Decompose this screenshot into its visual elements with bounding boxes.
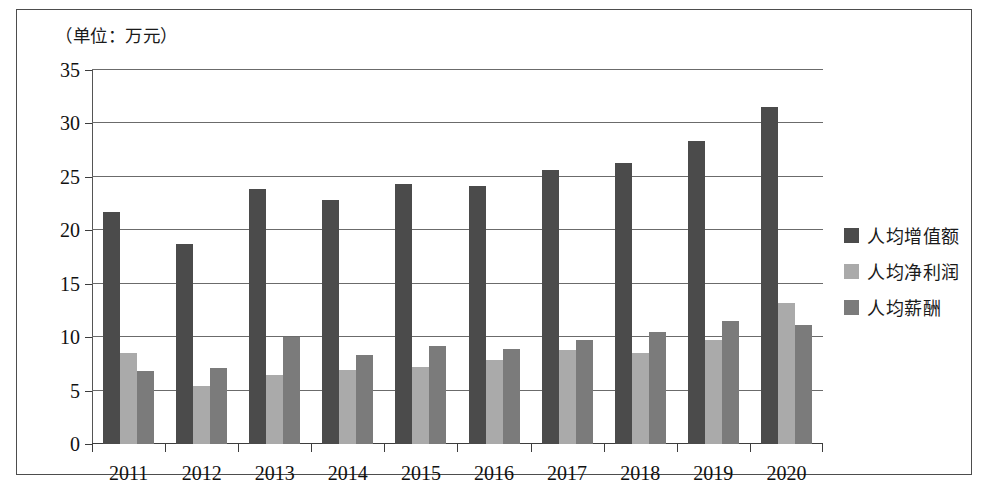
x-tick-mark (238, 444, 239, 452)
bar-group: 2013 (238, 70, 311, 444)
y-tick-mark (85, 391, 92, 392)
bar-group: 2018 (604, 70, 677, 444)
bar (705, 340, 722, 444)
legend-swatch-icon (844, 300, 859, 315)
bar-group: 2017 (531, 70, 604, 444)
bar-group: 2016 (457, 70, 530, 444)
bar (283, 337, 300, 444)
x-tick-mark (92, 444, 93, 452)
bar (322, 200, 339, 444)
bar (193, 386, 210, 444)
bar-group: 2011 (92, 70, 165, 444)
bar (615, 163, 632, 444)
legend-item: 人均增值额 (844, 222, 960, 248)
plot-area: 05101520253035 2011201220132014201520162… (92, 70, 823, 444)
bar (722, 321, 739, 444)
x-tick-label: 2020 (750, 462, 823, 485)
bar (559, 350, 576, 444)
x-tick-mark (384, 444, 385, 452)
y-tick-label: 10 (60, 327, 80, 347)
x-tick-mark (311, 444, 312, 452)
bar (412, 367, 429, 444)
x-tick-label: 2019 (677, 462, 750, 485)
legend-label: 人均薪酬 (867, 294, 941, 320)
x-tick-label: 2011 (92, 462, 165, 485)
bar (632, 353, 649, 444)
bar (688, 141, 705, 444)
bar-group: 2015 (384, 70, 457, 444)
bar-group: 2014 (311, 70, 384, 444)
bar (486, 360, 503, 444)
bar (649, 332, 666, 444)
bar (778, 303, 795, 444)
bar (356, 355, 373, 444)
y-tick-mark (85, 337, 92, 338)
x-tick-mark (750, 444, 751, 452)
y-tick-mark (85, 444, 92, 445)
legend-item: 人均薪酬 (844, 294, 960, 320)
bar (249, 189, 266, 444)
y-tick-mark (85, 284, 92, 285)
bar (176, 244, 193, 444)
bar (576, 340, 593, 444)
legend-swatch-icon (844, 264, 859, 279)
bar-groups: 2011201220132014201520162017201820192020 (92, 70, 823, 444)
x-tick-mark (165, 444, 166, 452)
y-tick-mark (85, 123, 92, 124)
bar (429, 346, 446, 444)
chart-page: （单位：万元） 05101520253035 20112012201320142… (0, 0, 989, 487)
bar (339, 370, 356, 444)
y-tick-label: 5 (70, 381, 80, 401)
y-tick-mark (85, 230, 92, 231)
bar (103, 212, 120, 444)
y-tick-label: 20 (60, 220, 80, 240)
x-tick-label: 2017 (531, 462, 604, 485)
bar (542, 170, 559, 444)
x-tick-mark (531, 444, 532, 452)
bar (795, 325, 812, 444)
x-tick-label: 2018 (604, 462, 677, 485)
bar (137, 371, 154, 444)
y-tick-label: 35 (60, 60, 80, 80)
y-tick-label: 30 (60, 113, 80, 133)
bar (210, 368, 227, 444)
bar-group: 2019 (677, 70, 750, 444)
x-tick-label: 2012 (165, 462, 238, 485)
legend-item: 人均净利润 (844, 258, 960, 284)
unit-annotation: （单位：万元） (55, 22, 178, 47)
y-tick-mark (85, 177, 92, 178)
x-tick-label: 2013 (238, 462, 311, 485)
bar (395, 184, 412, 444)
legend-swatch-icon (844, 228, 859, 243)
y-tick-label: 15 (60, 274, 80, 294)
bar-group: 2012 (165, 70, 238, 444)
x-tick-mark (677, 444, 678, 452)
chart-frame: （单位：万元） 05101520253035 20112012201320142… (16, 9, 972, 475)
x-tick-label: 2014 (311, 462, 384, 485)
bar (266, 375, 283, 444)
bar-group: 2020 (750, 70, 823, 444)
y-tick-label: 25 (60, 167, 80, 187)
x-tick-mark (822, 444, 823, 452)
bar (503, 349, 520, 444)
x-tick-label: 2015 (384, 462, 457, 485)
x-tick-mark (604, 444, 605, 452)
bar (761, 107, 778, 444)
y-tick-mark (85, 70, 92, 71)
legend: 人均增值额人均净利润人均薪酬 (844, 222, 960, 320)
bar (469, 186, 486, 444)
bar (120, 353, 137, 444)
legend-label: 人均净利润 (867, 258, 960, 284)
y-tick-label: 0 (70, 434, 80, 454)
x-tick-label: 2016 (457, 462, 530, 485)
x-tick-mark (457, 444, 458, 452)
legend-label: 人均增值额 (867, 222, 960, 248)
